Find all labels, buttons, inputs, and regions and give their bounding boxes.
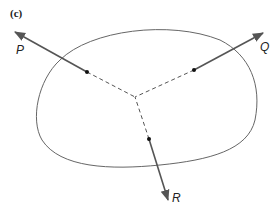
force-label-p: P bbox=[16, 43, 24, 57]
force-label-r: R bbox=[172, 191, 181, 205]
force-label-q: Q bbox=[260, 40, 269, 54]
force-arrow-r bbox=[149, 139, 168, 200]
body-outline bbox=[36, 30, 257, 168]
application-point-r bbox=[147, 137, 151, 141]
panel-label: (c) bbox=[10, 7, 23, 20]
force-arrow-q bbox=[194, 33, 263, 70]
force-diagram: (c) P Q R bbox=[0, 0, 279, 212]
application-point-p bbox=[85, 70, 89, 74]
dashed-line-q bbox=[135, 70, 194, 97]
dashed-line-r bbox=[135, 97, 149, 139]
application-point-q bbox=[192, 68, 196, 72]
force-arrow-p bbox=[15, 32, 87, 72]
dashed-line-p bbox=[87, 72, 135, 97]
